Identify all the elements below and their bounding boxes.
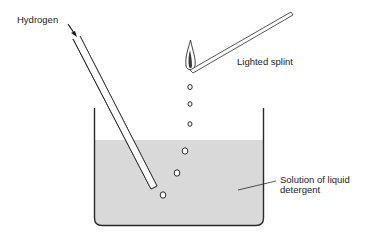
bubble bbox=[182, 148, 188, 154]
bubble bbox=[188, 122, 192, 127]
arrow-icon bbox=[68, 24, 77, 37]
bubble bbox=[174, 170, 180, 176]
bubble bbox=[188, 85, 192, 90]
liquid-detergent-solution bbox=[95, 140, 263, 225]
flame-icon bbox=[186, 40, 195, 70]
solution-label-line2: detergent bbox=[280, 185, 320, 195]
lighted-splint-label: Lighted splint bbox=[237, 57, 293, 67]
bubble bbox=[160, 192, 166, 198]
hydrogen-label: Hydrogen bbox=[17, 15, 58, 25]
diagram-canvas: Hydrogen Lighted splint Solution of liqu… bbox=[0, 0, 378, 238]
diagram-svg bbox=[0, 0, 378, 238]
bubble bbox=[188, 102, 192, 107]
